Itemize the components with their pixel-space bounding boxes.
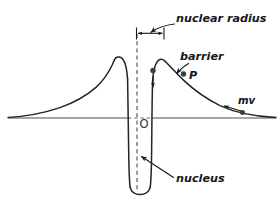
particle-p-dot: [181, 71, 186, 76]
potential-curve-left-peak: [116, 57, 128, 79]
nucleus-leader-line: [142, 157, 174, 178]
nuclear-radius-annotation: nuclear radius: [151, 12, 267, 32]
inner-particle-dot: [150, 68, 155, 73]
nucleus-label: nucleus: [176, 172, 225, 185]
nucleus-annotation: nucleus: [142, 157, 225, 186]
potential-curve-left-well-wall: [128, 79, 131, 187]
potential-curve-well-bottom: [130, 187, 150, 194]
potential-curve-right-well-wall: [150, 81, 152, 187]
barrier-annotation: barrier: [177, 50, 225, 73]
nuclear-radius-dimension-group: [137, 28, 165, 40]
nuclear-radius-label: nuclear radius: [176, 12, 267, 25]
origin-label: O: [140, 117, 149, 131]
momentum-mv-label: mv: [238, 95, 256, 106]
barrier-label: barrier: [180, 50, 225, 63]
inner-particle-annotation: [150, 68, 155, 87]
momentum-mv-annotation: mv: [225, 95, 256, 115]
particle-p-label: P: [189, 69, 198, 82]
nuclear-potential-diagram: nuclear radius barrier P mv O nucleus: [0, 0, 280, 207]
diagram-canvas: nuclear radius barrier P mv O nucleus: [0, 0, 280, 207]
nuclear-radius-leader-line: [151, 24, 175, 32]
potential-curve-left-tail: [8, 58, 116, 117]
